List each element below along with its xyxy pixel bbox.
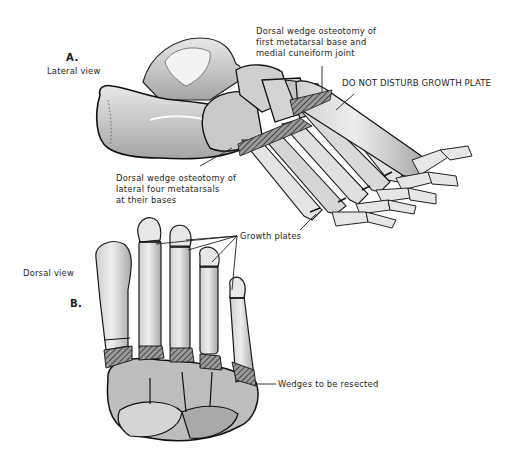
annotation-first-metatarsal-line-1: Dorsal wedge osteotomy of [256, 26, 376, 37]
annotation-first-metatarsal-line-2: first metatarsal base and [256, 37, 366, 48]
panel-b-letter: B. [70, 298, 82, 309]
panel-a-view-label: Lateral view [47, 66, 100, 77]
annotation-growth-plate-warning: DO NOT DISTURB GROWTH PLATE [342, 78, 491, 89]
annotation-lateral-four-line-1: Dorsal wedge osteotomy of [116, 173, 236, 184]
dorsal-foot-drawing [96, 218, 258, 441]
foot-osteotomy-figure: A. Lateral view Dorsal wedge osteotomy o… [0, 0, 519, 471]
annotation-lateral-four-line-3: at their bases [116, 195, 176, 206]
annotation-first-metatarsal-line-3: medial cuneiform joint [256, 48, 355, 59]
panel-b-view-label: Dorsal view [23, 268, 74, 279]
panel-a-letter: A. [66, 52, 79, 63]
annotation-lateral-four-line-2: lateral four metatarsals [116, 184, 220, 195]
annotation-growth-plates: Growth plates [240, 231, 301, 242]
annotation-wedges: Wedges to be resected [278, 379, 378, 390]
